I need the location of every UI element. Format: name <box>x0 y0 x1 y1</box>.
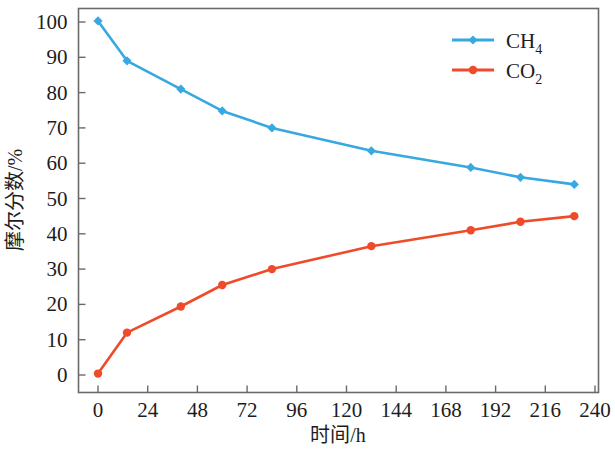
x-tick-label: 48 <box>187 398 208 422</box>
y-axis-title: 摩尔分数/% <box>4 149 26 251</box>
y-tick-label: 100 <box>36 10 68 34</box>
x-tick-label: 216 <box>530 398 562 422</box>
y-tick-label: 70 <box>47 116 68 140</box>
data-point-CH4 <box>267 123 276 132</box>
data-point-CO2 <box>367 242 375 250</box>
x-axis-tick-labels: 024487296120144168192216240 <box>93 398 611 422</box>
x-axis-title: 时间/h <box>310 424 366 446</box>
y-tick-label: 50 <box>47 187 68 211</box>
legend-label: CO2 <box>506 59 542 87</box>
x-tick-label: 240 <box>579 398 611 422</box>
legend-swatch-marker <box>469 66 477 74</box>
x-tick-label: 0 <box>93 398 104 422</box>
legend-label: CH4 <box>506 29 542 57</box>
data-point-CH4 <box>176 84 185 93</box>
y-axis-ticks <box>79 22 86 375</box>
y-tick-label: 30 <box>47 257 68 281</box>
data-point-CH4 <box>218 106 227 115</box>
y-tick-label: 20 <box>47 292 68 316</box>
y-tick-label: 10 <box>47 328 68 352</box>
x-axis-ticks <box>98 386 595 393</box>
data-point-CO2 <box>467 226 475 234</box>
x-tick-label: 72 <box>237 398 258 422</box>
data-point-CH4 <box>367 146 376 155</box>
y-tick-label: 60 <box>47 151 68 175</box>
chart-figure: 024487296120144168192216240 010203040506… <box>0 0 615 451</box>
series-CO2 <box>94 212 579 378</box>
data-point-CH4 <box>466 163 475 172</box>
x-tick-label: 168 <box>430 398 462 422</box>
data-point-CH4 <box>516 173 525 182</box>
data-point-CO2 <box>177 302 185 310</box>
data-point-CO2 <box>516 218 524 226</box>
data-point-CO2 <box>218 281 226 289</box>
y-tick-label: 0 <box>57 363 68 387</box>
data-point-CO2 <box>268 265 276 273</box>
y-tick-label: 40 <box>47 222 68 246</box>
data-point-CO2 <box>94 369 102 377</box>
data-point-CO2 <box>123 328 131 336</box>
legend-swatch-marker <box>468 35 477 44</box>
y-axis-tick-labels: 0102030405060708090100 <box>36 10 68 387</box>
x-tick-label: 192 <box>480 398 512 422</box>
y-tick-label: 90 <box>47 45 68 69</box>
x-tick-label: 24 <box>137 398 159 422</box>
series-line-CH4 <box>98 21 574 184</box>
y-tick-label: 80 <box>47 81 68 105</box>
chart-legend: CH4CO2 <box>452 29 542 87</box>
data-point-CH4 <box>570 180 579 189</box>
x-tick-label: 120 <box>331 398 363 422</box>
x-tick-label: 144 <box>380 398 412 422</box>
line-chart: 024487296120144168192216240 010203040506… <box>0 0 615 451</box>
x-tick-label: 96 <box>286 398 307 422</box>
data-point-CO2 <box>570 212 578 220</box>
series-line-CO2 <box>98 216 574 373</box>
